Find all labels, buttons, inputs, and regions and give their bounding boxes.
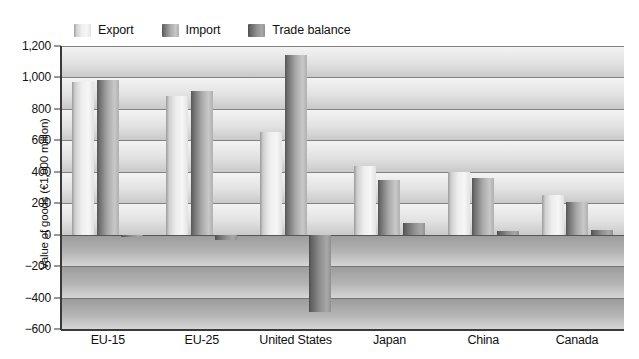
- bar-china-export[interactable]: [448, 172, 470, 235]
- x-tick-label-china: China: [467, 333, 499, 347]
- plot-area: [61, 46, 624, 329]
- gridline: [61, 266, 624, 267]
- y-tick-mark: [54, 203, 61, 204]
- bar-china-import[interactable]: [472, 178, 494, 235]
- gridline: [61, 109, 624, 110]
- y-tick-label: 800: [32, 102, 51, 116]
- gridline: [61, 298, 624, 299]
- y-tick-mark: [54, 46, 61, 47]
- plot-band: [61, 203, 624, 234]
- plot-band: [61, 140, 624, 171]
- legend-item-import: Import: [162, 23, 221, 37]
- bar-chart: Export Import Trade balance Value of goo…: [0, 0, 639, 359]
- y-tick-mark: [54, 234, 61, 235]
- bar-canada-import[interactable]: [566, 202, 588, 235]
- bar-eu-25-export[interactable]: [166, 96, 188, 234]
- x-tick-label-eu-25: EU-25: [185, 333, 219, 347]
- legend-item-export: Export: [74, 23, 134, 37]
- x-tick-label-united-states: United States: [259, 333, 331, 347]
- y-tick-mark: [54, 171, 61, 172]
- plot-band: [61, 172, 624, 203]
- y-tick-mark: [54, 266, 61, 267]
- bar-eu-15-trade-balance[interactable]: [121, 235, 143, 238]
- x-tick-label-japan: Japan: [373, 333, 406, 347]
- chart-legend: Export Import Trade balance: [74, 20, 379, 40]
- x-axis-line: [61, 329, 624, 331]
- gridline: [61, 203, 624, 204]
- legend-swatch-export-icon: [74, 24, 91, 37]
- y-axis: 1,2001,0008006004002000−200−400−600: [0, 46, 61, 329]
- bar-eu-25-import[interactable]: [191, 91, 213, 235]
- y-tick-label: 200: [32, 196, 51, 210]
- y-tick-mark: [54, 140, 61, 141]
- legend-swatch-trade-balance-icon: [248, 24, 265, 37]
- plot-band: [61, 109, 624, 140]
- plot-band: [61, 77, 624, 108]
- bar-japan-trade-balance[interactable]: [403, 223, 425, 235]
- bar-eu-15-export[interactable]: [72, 82, 94, 235]
- y-tick-label: −600: [25, 322, 51, 336]
- y-tick-label: −200: [25, 259, 51, 273]
- gridline: [61, 140, 624, 141]
- bar-united-states-import[interactable]: [285, 55, 307, 234]
- y-tick-label: 1,200: [22, 39, 51, 53]
- x-axis-labels: EU-15EU-25United StatesJapanChinaCanada: [61, 333, 624, 355]
- plot-band: [61, 266, 624, 297]
- gridline: [61, 172, 624, 173]
- y-tick-label: 0: [45, 228, 51, 242]
- bar-japan-export[interactable]: [354, 166, 376, 234]
- plot-band: [61, 298, 624, 329]
- legend-swatch-import-icon: [162, 24, 179, 37]
- y-tick-label: 600: [32, 133, 51, 147]
- bar-canada-trade-balance[interactable]: [591, 230, 613, 235]
- zero-gridline: [61, 235, 624, 236]
- bar-china-trade-balance[interactable]: [497, 231, 519, 235]
- y-tick-label: 1,000: [22, 70, 51, 84]
- y-tick-mark: [54, 77, 61, 78]
- bar-eu-25-trade-balance[interactable]: [215, 235, 237, 241]
- bar-united-states-export[interactable]: [260, 132, 282, 234]
- bar-eu-15-import[interactable]: [97, 80, 119, 235]
- legend-label-import: Import: [186, 23, 221, 37]
- x-tick-label-eu-15: EU-15: [91, 333, 125, 347]
- legend-item-trade-balance: Trade balance: [248, 23, 350, 37]
- y-tick-mark: [54, 108, 61, 109]
- legend-label-export: Export: [98, 23, 134, 37]
- y-tick-mark: [54, 297, 61, 298]
- y-tick-label: −400: [25, 291, 51, 305]
- y-tick-label: 400: [32, 165, 51, 179]
- x-tick-label-canada: Canada: [556, 333, 599, 347]
- plot-band: [61, 235, 624, 266]
- y-tick-mark: [54, 329, 61, 330]
- legend-label-trade-balance: Trade balance: [272, 23, 350, 37]
- gridline: [61, 77, 624, 78]
- bar-united-states-trade-balance[interactable]: [309, 235, 331, 312]
- bar-canada-export[interactable]: [542, 195, 564, 235]
- bar-japan-import[interactable]: [378, 180, 400, 235]
- plot-band: [61, 46, 624, 77]
- gridline: [61, 46, 624, 47]
